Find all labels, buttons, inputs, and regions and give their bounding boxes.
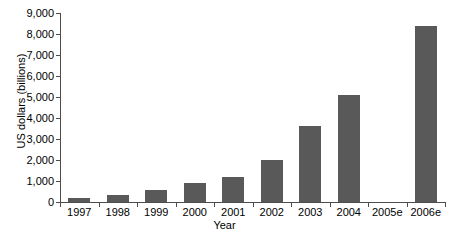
y-axis-tick-label: 9,000 [6,8,54,19]
bar[interactable] [338,95,360,202]
bar[interactable] [299,126,321,202]
x-axis-tick [176,203,177,207]
x-axis-tick [291,203,292,207]
x-axis-tick-label: 2002 [260,206,284,218]
y-axis-tick-label: 3,000 [6,134,54,145]
x-axis-tick-label: 2001 [221,206,245,218]
x-axis-tick [137,203,138,207]
y-axis-tick [56,181,60,182]
x-axis-title: Year [0,219,449,231]
y-axis-tick [56,55,60,56]
y-axis-tick-labels: 01,0002,0003,0004,0005,0006,0007,0008,00… [4,13,54,203]
bar[interactable] [415,26,437,202]
bar[interactable] [68,198,90,202]
bar[interactable] [107,195,129,202]
x-axis-tick-label: 1997 [67,206,91,218]
x-axis-tick-label: 1999 [144,206,168,218]
x-axis-tick [445,203,446,207]
y-axis-tick-label: 8,000 [6,29,54,40]
y-axis-tick [56,13,60,14]
bar[interactable] [261,160,283,202]
y-axis-tick [56,76,60,77]
x-axis-tick [368,203,369,207]
x-axis-tick [60,203,61,207]
bar[interactable] [222,177,244,202]
x-axis-tick-label: 1998 [106,206,130,218]
x-axis-tick-label: 2000 [183,206,207,218]
x-axis-tick-label: 2004 [337,206,361,218]
y-axis-tick [56,160,60,161]
x-axis-tick [407,203,408,207]
x-axis-tick [253,203,254,207]
y-axis-tick [56,34,60,35]
x-axis-tick [214,203,215,207]
bar[interactable] [184,183,206,202]
y-axis-tick-label: 5,000 [6,92,54,103]
x-axis-tick-label: 2006e [410,206,441,218]
y-axis-tick-label: 4,000 [6,113,54,124]
y-axis-tick-label: 6,000 [6,71,54,82]
y-axis-tick-label: 7,000 [6,50,54,61]
bar-series [60,13,446,202]
y-axis-tick-label: 1,000 [6,176,54,187]
x-axis-tick-label: 2003 [298,206,322,218]
y-axis-tick [56,97,60,98]
y-axis-tick-label: 0 [6,197,54,208]
plot-area [60,13,445,202]
x-axis-tick [330,203,331,207]
bar[interactable] [145,190,167,202]
x-axis-tick [99,203,100,207]
bar-chart: US dollars (billions) 01,0002,0003,0004,… [0,0,449,232]
x-axis-tick-label: 2005e [372,206,403,218]
y-axis-tick-label: 2,000 [6,155,54,166]
y-axis-tick [56,118,60,119]
y-axis-tick [56,139,60,140]
